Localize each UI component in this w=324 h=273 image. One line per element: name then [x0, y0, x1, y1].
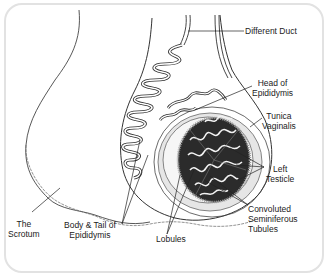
label-body-tail-epididymis: Body & Tail of Epididymis [64, 220, 116, 240]
label-line: Epididymis [64, 230, 116, 240]
label-line: Epididymis [252, 88, 293, 98]
label-convoluted-seminiferous-tubules: Convoluted Seminiferous Tubules [248, 204, 298, 234]
label-line: Head of [252, 78, 293, 88]
label-line: Vaginalis [262, 121, 296, 131]
label-line: Seminiferous [248, 214, 298, 224]
label-line: Left [266, 164, 294, 174]
label-left-testicle: Left Testicle [266, 164, 294, 184]
label-line: The [8, 219, 40, 229]
label-lobules: Lobules [156, 234, 186, 244]
label-line: Body & Tail of [64, 220, 116, 230]
label-the-scrotum: The Scrotum [8, 219, 40, 239]
label-tunica-vaginalis: Tunica Vaginalis [262, 111, 296, 131]
label-line: Convoluted [248, 204, 298, 214]
label-line: Scrotum [8, 229, 40, 239]
label-head-of-epididymis: Head of Epididymis [252, 78, 293, 98]
label-different-duct: Different Duct [245, 26, 297, 36]
label-line: Tunica [262, 111, 296, 121]
label-line: Tubules [248, 224, 298, 234]
label-line: Testicle [266, 174, 294, 184]
